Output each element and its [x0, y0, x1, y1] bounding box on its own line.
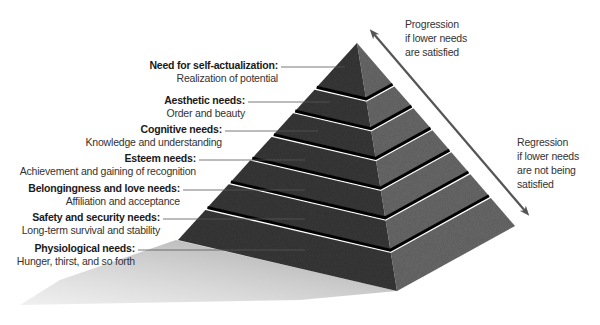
- level-subtitle: Knowledge and understanding: [86, 136, 222, 149]
- level-title: Physiological needs:: [17, 242, 135, 255]
- level-title: Belongingness and love needs:: [28, 182, 180, 195]
- progression-line-2: if lower needs: [405, 31, 467, 45]
- level-subtitle: Affiliation and acceptance: [28, 195, 180, 208]
- level-label: Physiological needs:Hunger, thirst, and …: [17, 242, 135, 268]
- level-subtitle: Hunger, thirst, and so forth: [17, 255, 135, 268]
- level-subtitle: Long-term survival and stability: [22, 224, 160, 237]
- level-title: Aesthetic needs:: [164, 94, 245, 107]
- progression-line-1: Progression: [405, 17, 467, 31]
- level-label: Aesthetic needs:Order and beauty: [164, 94, 245, 120]
- level-subtitle: Realization of potential: [149, 72, 278, 85]
- level-label: Cognitive needs:Knowledge and understand…: [86, 123, 222, 149]
- level-title: Safety and security needs:: [22, 211, 160, 224]
- progression-line-3: are satisfied: [405, 45, 467, 59]
- level-label: Esteem needs:Achievement and gaining of …: [20, 152, 196, 178]
- level-label: Need for self-actualization:Realization …: [149, 59, 278, 85]
- level-title: Need for self-actualization:: [149, 59, 278, 72]
- level-subtitle: Achievement and gaining of recognition: [20, 165, 196, 178]
- level-subtitle: Order and beauty: [164, 107, 245, 120]
- progression-note: Progression if lower needs are satisfied: [405, 17, 467, 59]
- regression-line-2: if lower needs: [517, 149, 579, 163]
- level-label: Belongingness and love needs:Affiliation…: [28, 182, 180, 208]
- level-title: Esteem needs:: [20, 152, 196, 165]
- regression-line-3: are not being: [517, 163, 579, 177]
- level-title: Cognitive needs:: [86, 123, 222, 136]
- regression-line-4: satisfied: [517, 177, 579, 191]
- level-label: Safety and security needs:Long-term surv…: [22, 211, 160, 237]
- regression-line-1: Regression: [517, 135, 579, 149]
- maslow-hierarchy-diagram: Need for self-actualization:Realization …: [0, 0, 600, 325]
- regression-note: Regression if lower needs are not being …: [517, 135, 579, 191]
